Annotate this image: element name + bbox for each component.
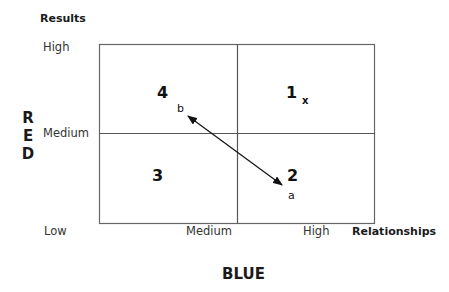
red-side-label: R E D [21, 109, 35, 163]
x-axis-title: Relationships [352, 225, 436, 238]
quadrant-4-label: 4 [157, 83, 168, 102]
red-letter-d: D [21, 145, 35, 163]
y-tick-low: Low [44, 224, 67, 238]
point-b-label: b [177, 102, 184, 115]
quadrant-2-label: 2 [287, 166, 298, 185]
red-letter-e: E [21, 127, 35, 145]
quadrant-3-label: 3 [152, 166, 163, 185]
y-tick-medium: Medium [43, 126, 89, 140]
x-tick-high: High [303, 224, 329, 238]
double-arrow-b-to-a [188, 116, 282, 185]
y-axis-title: Results [40, 12, 86, 25]
x-tick-medium: Medium [186, 224, 232, 238]
point-a-label: a [288, 189, 295, 202]
point-x-label: x [302, 95, 308, 106]
blue-bottom-label: BLUE [222, 265, 265, 283]
red-letter-r: R [21, 109, 35, 127]
quadrant-1-label: 1 [286, 83, 297, 102]
y-tick-high: High [43, 40, 69, 54]
